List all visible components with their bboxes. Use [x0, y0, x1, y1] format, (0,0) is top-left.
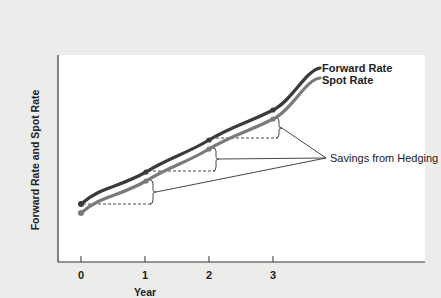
annotation-savings-from-hedging: Savings from Hedging: [330, 152, 438, 164]
tick-label-3: 3: [270, 269, 276, 281]
x-ticks: [81, 256, 273, 262]
tick-label-2: 2: [206, 269, 212, 281]
x-axis-label: Year: [134, 286, 156, 298]
tick-label-0: 0: [78, 269, 84, 281]
legend-forward-rate: Forward Rate: [322, 62, 392, 74]
forward-rate-line: [81, 68, 320, 204]
tick-label-1: 1: [142, 269, 148, 281]
hedging-chart: 0 1 2 3 Year Forward Rate and Spot Rate: [0, 0, 441, 298]
legend-spot-rate: Spot Rate: [322, 74, 373, 86]
y-axis-label: Forward Rate and Spot Rate: [29, 90, 41, 231]
